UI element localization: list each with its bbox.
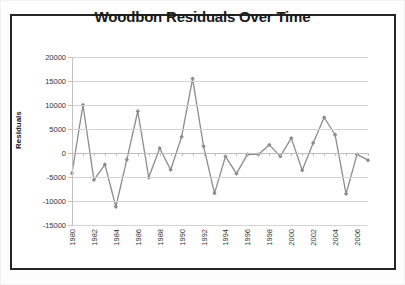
y-tick-label: 20000 xyxy=(45,53,66,62)
plot-area xyxy=(72,57,368,225)
x-tick-label: 1984 xyxy=(112,229,121,246)
residuals-line-series xyxy=(72,57,368,225)
x-tick-mark xyxy=(182,153,183,156)
x-tick-label: 1992 xyxy=(200,229,209,246)
data-point-marker xyxy=(344,192,348,196)
x-tick-mark xyxy=(171,153,172,156)
y-tick-label: -5000 xyxy=(47,173,66,182)
x-tick-mark xyxy=(357,153,358,156)
x-tick-label: 1986 xyxy=(134,229,143,246)
x-tick-mark xyxy=(83,153,84,156)
x-tick-mark xyxy=(116,153,117,156)
y-tick-label: 10000 xyxy=(45,101,66,110)
x-tick-mark xyxy=(247,153,248,156)
y-tick-mark xyxy=(68,225,72,226)
data-point-marker xyxy=(212,191,216,195)
y-tick-label: 5000 xyxy=(49,125,66,134)
x-tick-mark xyxy=(105,153,106,156)
x-tick-label: 1994 xyxy=(221,229,230,246)
x-tick-label: 1990 xyxy=(178,229,187,246)
gridline-20000 xyxy=(72,57,368,58)
x-tick-label: 1988 xyxy=(156,229,165,246)
x-tick-mark xyxy=(127,153,128,156)
x-tick-mark xyxy=(335,153,336,156)
x-tick-mark xyxy=(138,153,139,156)
data-point-marker xyxy=(311,141,315,145)
data-point-marker xyxy=(201,144,205,148)
gridline--5000 xyxy=(72,177,368,178)
x-tick-mark xyxy=(225,153,226,156)
x-tick-mark xyxy=(236,153,237,156)
x-tick-mark xyxy=(258,153,259,156)
x-tick-mark xyxy=(160,153,161,156)
x-tick-label: 2000 xyxy=(287,229,296,246)
y-tick-label: -15000 xyxy=(43,221,66,230)
x-tick-mark xyxy=(72,153,73,156)
x-tick-label: 2002 xyxy=(309,229,318,246)
x-tick-mark xyxy=(368,153,369,156)
x-tick-label: 1980 xyxy=(68,229,77,246)
data-point-marker xyxy=(136,109,140,113)
data-point-marker xyxy=(114,205,118,209)
y-tick-label: 15000 xyxy=(45,77,66,86)
x-tick-mark xyxy=(280,153,281,156)
x-tick-mark xyxy=(313,153,314,156)
x-tick-mark xyxy=(204,153,205,156)
y-tick-label: -10000 xyxy=(43,197,66,206)
gridline-15000 xyxy=(72,81,368,82)
data-point-marker xyxy=(125,158,129,162)
gridline-10000 xyxy=(72,105,368,106)
y-tick-label: 0 xyxy=(62,149,66,158)
gridline-5000 xyxy=(72,129,368,130)
chart-title: Woodbon Residuals Over Time xyxy=(0,8,405,25)
y-axis-label: Residuals xyxy=(11,95,25,165)
data-point-marker xyxy=(158,146,162,150)
gridline--10000 xyxy=(72,201,368,202)
x-tick-mark xyxy=(193,153,194,156)
x-tick-mark xyxy=(149,153,150,156)
data-point-marker xyxy=(300,168,304,172)
data-point-marker xyxy=(168,168,172,172)
x-tick-mark xyxy=(269,153,270,156)
x-tick-mark xyxy=(302,153,303,156)
x-tick-label: 2006 xyxy=(353,229,362,246)
residuals-polyline xyxy=(72,79,368,207)
x-tick-label: 1996 xyxy=(243,229,252,246)
chart-screenshot: Woodbon Residuals Over Time Residuals 20… xyxy=(0,0,405,285)
x-tick-mark xyxy=(324,153,325,156)
x-tick-label: 2004 xyxy=(331,229,340,246)
x-tick-mark xyxy=(346,153,347,156)
x-tick-mark xyxy=(291,153,292,156)
x-tick-label: 1998 xyxy=(265,229,274,246)
x-tick-mark xyxy=(215,153,216,156)
data-point-marker xyxy=(179,134,183,138)
gridline--15000 xyxy=(72,225,368,226)
x-tick-label: 1982 xyxy=(90,229,99,246)
y-axis-line xyxy=(72,57,73,225)
x-tick-mark xyxy=(94,153,95,156)
